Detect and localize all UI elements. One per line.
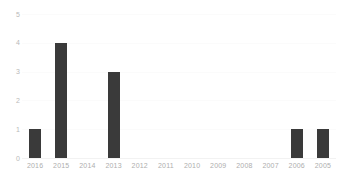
bar <box>108 72 120 158</box>
x-axis: 2016201520142013201220112010200920082007… <box>22 162 336 176</box>
y-tick-label: 1 <box>4 126 20 133</box>
y-tick-label: 3 <box>4 68 20 75</box>
bar <box>317 129 329 158</box>
bar <box>29 129 41 158</box>
bars-layer <box>22 14 336 158</box>
y-tick-label: 2 <box>4 97 20 104</box>
plot-area <box>22 14 336 158</box>
gridline <box>22 158 336 159</box>
y-tick-label: 4 <box>4 39 20 46</box>
bar <box>291 129 303 158</box>
bar <box>55 43 67 158</box>
y-axis: 012345 <box>0 14 20 158</box>
y-tick-label: 5 <box>4 11 20 18</box>
x-tick-label: 2005 <box>308 162 338 169</box>
y-tick-label: 0 <box>4 155 20 162</box>
bar-chart: 012345 201620152014201320122011201020092… <box>0 0 338 183</box>
